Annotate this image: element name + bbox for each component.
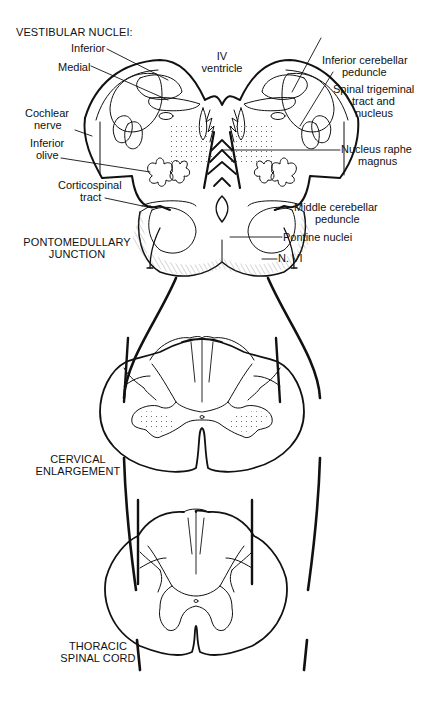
cervical-section [100, 337, 304, 472]
label-cochlear-nerve-line2: nerve [34, 119, 62, 132]
label-spinal-trigeminal-line3: nucleus [355, 107, 393, 120]
label-iv-ventricle-line2: ventricle [190, 62, 254, 75]
thoracic-section [105, 500, 287, 655]
section-label-cervical-line2: ENLARGEMENT [30, 465, 126, 478]
section-label-thoracic-line2: SPINAL CORD [58, 652, 138, 665]
label-mcp-line2: peduncle [315, 213, 360, 226]
section-label-pontomedullary-line2: JUNCTION [18, 248, 136, 261]
label-raphe-line2: magnus [358, 155, 397, 168]
label-icp-line2: peduncle [342, 66, 387, 79]
label-corticospinal-line2: tract [80, 191, 101, 204]
diagram-canvas: VESTIBULAR NUCLEI: Inferior Medial IV ve… [0, 0, 444, 706]
label-inferior-vestibular: Inferior [71, 42, 105, 55]
label-medial-vestibular: Medial [58, 61, 90, 74]
label-inferior-olive-line2: olive [36, 149, 59, 162]
diagram-title: VESTIBULAR NUCLEI: [16, 26, 133, 39]
label-n-vi: N. VI [278, 252, 302, 265]
label-pontine-nuclei: Pontine nuclei [283, 231, 352, 244]
connecting-lines [124, 278, 320, 670]
